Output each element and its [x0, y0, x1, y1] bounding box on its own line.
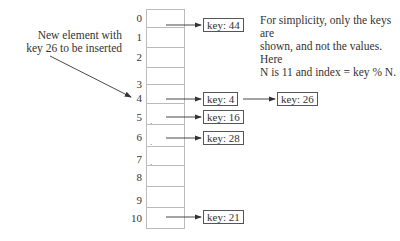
entry-key-28: key: 28: [203, 131, 244, 145]
entry-key-21: key: 21: [203, 210, 244, 224]
entry-key-16: key: 16: [203, 110, 244, 124]
insert-pointer-arrow: [50, 56, 131, 97]
arrows-layer: [0, 0, 400, 241]
entry-key-26: key: 26: [277, 92, 318, 106]
entry-key-4: key: 4: [203, 92, 238, 106]
entry-key-44: key: 44: [203, 18, 244, 32]
